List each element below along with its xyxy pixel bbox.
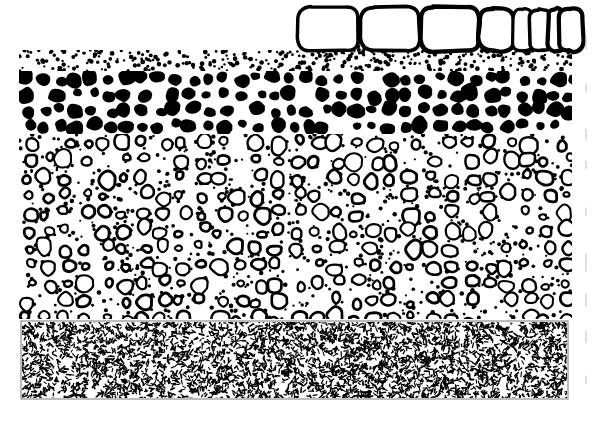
pebble-clast — [22, 175, 30, 183]
pebble-clast — [54, 149, 71, 168]
pebble-clast — [175, 191, 182, 199]
pebble-clast — [196, 260, 206, 267]
pebble-clast — [558, 140, 567, 151]
pebble-clast — [123, 154, 130, 160]
pebble-clast — [407, 302, 414, 308]
pebble-clast — [46, 152, 53, 160]
pebble-clast — [257, 232, 266, 238]
pebble-clast — [426, 172, 435, 180]
pebble-clast — [326, 133, 342, 151]
pebble-clast — [313, 246, 321, 252]
pebble-clast — [467, 262, 477, 271]
pebble-clast — [237, 296, 249, 306]
pebble-clast — [352, 274, 366, 284]
pebble-clast — [213, 231, 221, 238]
pebble-clast — [406, 240, 422, 259]
pebble-clast — [292, 157, 306, 169]
pebble-clast — [198, 173, 212, 184]
pebble-clast — [77, 296, 90, 307]
pebble-clast — [99, 171, 115, 190]
pebble-clast — [273, 190, 283, 198]
pebble-clast — [272, 137, 287, 156]
pebble-clast — [175, 245, 182, 250]
layer-boulder-clast-row — [296, 6, 584, 59]
pebble-clast — [381, 294, 395, 306]
pebble-clast — [268, 279, 282, 293]
pebble-clast — [500, 184, 515, 200]
pebble-clast — [366, 224, 381, 237]
pebble-clast — [562, 280, 569, 287]
pebble-clast — [251, 259, 266, 270]
pebble-clast — [352, 194, 365, 204]
pebble-clast — [251, 192, 263, 207]
pebble-clast — [237, 280, 244, 286]
pebble-clast — [159, 293, 172, 306]
pebble-clast — [267, 246, 281, 255]
pebble-clast — [200, 222, 210, 231]
pebble-clast — [250, 300, 259, 308]
pebble-clast — [139, 153, 150, 161]
pebble-clast — [504, 152, 519, 169]
pebble-clast — [211, 173, 226, 185]
pebble-clast — [35, 168, 50, 184]
pebble-clast — [41, 212, 48, 220]
pebble-clast — [298, 282, 305, 291]
pebble-clast — [442, 277, 456, 287]
pebble-clast — [177, 280, 184, 285]
pebble-clast — [364, 174, 377, 190]
pebble-clast — [467, 292, 478, 305]
pebble-clast — [316, 259, 323, 265]
pebble-clast — [484, 149, 498, 164]
pebble-clast — [541, 284, 549, 290]
pebble-clast — [328, 169, 342, 183]
cobble-clast — [380, 123, 395, 135]
pebble-clast — [295, 187, 305, 198]
pebble-clast — [235, 260, 245, 269]
pebble-clast — [273, 223, 283, 235]
pebble-clast — [134, 170, 145, 184]
cobble-clast — [299, 69, 313, 83]
cobble-clast — [401, 122, 412, 133]
figure-canvas — [0, 0, 597, 422]
pebble-clast — [385, 228, 396, 242]
pebble-clast — [20, 298, 33, 312]
pebble-clast — [442, 245, 458, 256]
pebble-clast — [176, 171, 183, 179]
pebble-clast — [218, 193, 226, 200]
pebble-clast — [195, 241, 202, 248]
pebble-clast — [406, 264, 412, 269]
pebble-clast — [255, 169, 267, 181]
boulder-clast — [297, 7, 358, 51]
pebble-clast — [523, 170, 531, 178]
pebble-clast — [370, 260, 380, 271]
pebble-clast — [60, 224, 68, 232]
pebble-clast — [27, 259, 35, 267]
pebble-clast — [176, 137, 184, 148]
boulder-clast — [421, 7, 480, 52]
pebble-clast — [29, 280, 36, 286]
pebble-clast — [350, 231, 357, 237]
stratigraphic-column-figure — [0, 0, 597, 422]
pebble-clast — [483, 204, 497, 221]
pebble-clast — [271, 171, 284, 188]
pebble-clast — [426, 262, 441, 275]
pebble-clast — [312, 276, 323, 289]
pebble-clast — [27, 247, 34, 254]
boulder-clast — [559, 8, 584, 52]
pebble-clast — [367, 138, 384, 152]
pebble-clast — [440, 291, 454, 306]
pebble-clast — [96, 138, 108, 150]
pebble-clast — [82, 263, 89, 269]
pebble-clast — [60, 246, 71, 258]
pebble-clast — [39, 311, 50, 320]
pebble-clast — [539, 158, 547, 167]
pebble-clast — [407, 312, 413, 319]
pebble-clast — [373, 158, 384, 171]
pebble-clast — [349, 212, 362, 222]
pebble-clast — [41, 261, 55, 276]
pebble-clast — [60, 187, 70, 198]
cobble-clast — [102, 91, 115, 102]
pebble-clast — [545, 190, 557, 202]
pebble-clast — [181, 206, 192, 219]
pebble-clast — [137, 277, 147, 290]
